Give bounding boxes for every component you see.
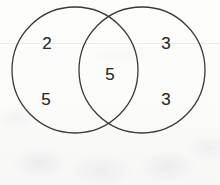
label-left-lower: 5 (41, 91, 51, 108)
label-right-lower: 3 (161, 91, 171, 108)
left-circle (12, 7, 138, 133)
right-circle (79, 7, 205, 133)
label-right-upper: 3 (161, 35, 171, 52)
venn-diagram-page: 2 5 5 3 3 (0, 0, 220, 185)
label-left-upper: 2 (42, 35, 52, 52)
venn-circles-graphic (0, 0, 220, 185)
label-intersection: 5 (105, 66, 115, 83)
